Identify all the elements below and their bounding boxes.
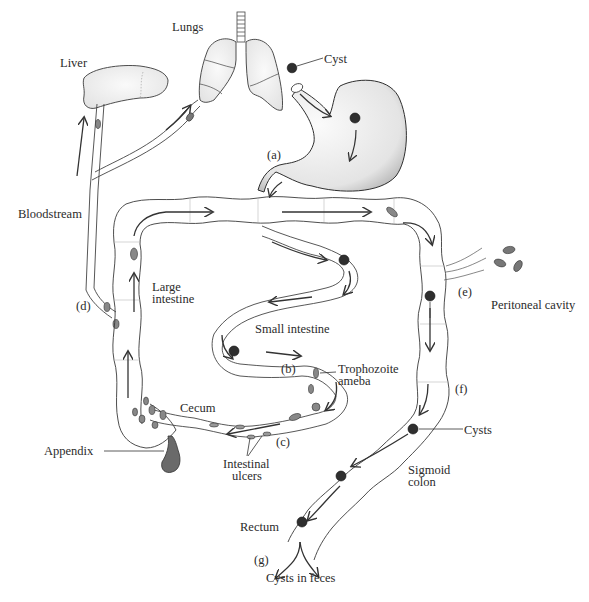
label-bloodstream: Bloodstream [18,207,82,221]
label-stage-c: (c) [276,435,290,449]
bloodstream-vessels [86,100,200,318]
small-intestine-cysts [229,255,349,356]
label-cyst: Cyst [324,52,347,66]
label-small-intestine: Small intestine [255,322,330,336]
label-stage-a: (a) [267,148,281,162]
liver-organ [83,66,168,109]
large-intestine-arrows [128,212,432,578]
label-sigmoid-2: colon [408,475,436,489]
label-peritoneal-cavity: Peritoneal cavity [491,298,575,312]
label-stage-f: (f) [455,382,468,396]
label-intestinal-ulcers-2: ulcers [232,469,262,483]
label-lungs: Lungs [172,20,203,34]
label-appendix: Appendix [44,444,93,458]
cecum [118,397,180,473]
peritoneal-trophozoites [493,246,524,273]
label-cysts-in-feces: Cysts in feces [266,571,335,585]
label-stage-e: (e) [458,285,472,299]
colon-trophozoites [131,206,399,260]
label-cecum: Cecum [180,401,215,415]
cyst-icon [287,63,297,73]
label-rectum: Rectum [240,520,279,534]
label-large-intestine-2: intestine [152,292,194,306]
label-stage-g: (g) [254,553,269,567]
small-intestine-arrows [222,242,350,434]
small-intestine-trophozoites [210,368,321,439]
label-stage-b: (b) [281,362,296,376]
label-liver: Liver [60,56,87,70]
peritoneal-perforation [444,248,486,280]
large-intestine [113,197,449,560]
label-cysts: Cysts [464,423,492,437]
label-trophozoite-2: ameba [338,374,371,388]
lungs-organ [199,12,282,110]
label-stage-d: (d) [76,299,91,313]
